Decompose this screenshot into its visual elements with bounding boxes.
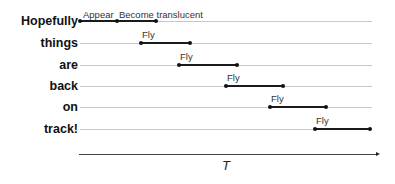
keyframe-dot: [188, 41, 192, 45]
timeline-track: [80, 107, 372, 108]
segment-fly: [315, 128, 370, 130]
keyframe-dot: [313, 127, 317, 131]
axis-arrow-icon: [376, 152, 380, 156]
label-fly: Fly: [142, 29, 155, 40]
label-fly: Fly: [316, 115, 329, 126]
keyframe-dot: [139, 41, 143, 45]
keyframe-dot: [235, 63, 239, 67]
keyframe-dot: [268, 105, 272, 109]
timeline-track: [80, 43, 372, 44]
keyframe-dot: [368, 127, 372, 131]
keyframe-dot: [324, 105, 328, 109]
segment-fly: [226, 85, 283, 87]
label-become-translucent: Become translucent: [119, 9, 203, 20]
row-word-track: track!: [44, 122, 78, 136]
label-appear: Appear: [83, 9, 114, 20]
segment-fly: [179, 64, 237, 66]
row-word-are: are: [59, 58, 78, 72]
segment-become-translucent: [117, 20, 156, 22]
keyframe-dot: [224, 84, 228, 88]
keyframe-dot: [177, 63, 181, 67]
label-fly: Fly: [271, 93, 284, 104]
segment-fly: [141, 42, 190, 44]
row-word-on: on: [63, 100, 78, 114]
segment-fly: [270, 106, 326, 108]
row-word-back: back: [50, 79, 79, 93]
keyframe-dot: [78, 19, 82, 23]
time-axis: [79, 154, 377, 155]
keyframe-dot: [281, 84, 285, 88]
row-word-things: things: [41, 36, 79, 50]
segment-appear: [80, 20, 117, 22]
axis-label-time: T: [222, 158, 230, 173]
label-fly: Fly: [227, 72, 240, 83]
label-fly: Fly: [180, 51, 193, 62]
row-word-hopefully: Hopefully: [21, 14, 78, 28]
